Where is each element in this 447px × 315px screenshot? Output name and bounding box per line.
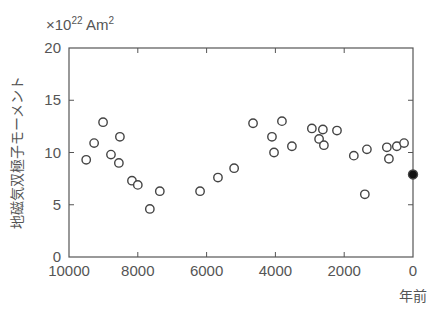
data-point	[319, 125, 327, 133]
axis-ticks: 100008000600040002000005101520	[44, 39, 417, 279]
data-point	[230, 164, 238, 172]
data-point	[82, 156, 90, 164]
data-point	[196, 187, 204, 195]
x-tick-label: 4000	[259, 262, 292, 279]
data-point	[99, 118, 107, 126]
data-point	[350, 151, 358, 159]
plot-frame	[69, 48, 413, 257]
present-value-point	[409, 170, 418, 179]
data-point	[363, 145, 371, 153]
y-tick-label: 15	[44, 91, 61, 108]
x-tick-label: 2000	[328, 262, 361, 279]
y-tick-label: 10	[44, 144, 61, 161]
y-unit-label: ×1022 Am2	[46, 15, 114, 33]
y-tick-label: 0	[53, 248, 61, 265]
data-point	[400, 139, 408, 147]
data-point	[288, 142, 296, 150]
data-point	[214, 173, 222, 181]
data-point	[308, 124, 316, 132]
data-point	[107, 150, 115, 158]
y-axis-title: 地磁気双極子モーメント	[9, 76, 25, 229]
data-point	[361, 190, 369, 198]
data-point	[320, 141, 328, 149]
data-points	[82, 117, 418, 213]
dipole-moment-chart: 100008000600040002000005101520 ×1022 Am2…	[0, 0, 447, 315]
data-point	[134, 181, 142, 189]
data-point	[383, 143, 391, 151]
data-point	[333, 126, 341, 134]
x-tick-label: 0	[409, 262, 417, 279]
data-point	[90, 139, 98, 147]
data-point	[278, 117, 286, 125]
data-point	[116, 133, 124, 141]
data-point	[115, 159, 123, 167]
y-tick-label: 5	[53, 196, 61, 213]
data-point	[268, 133, 276, 141]
y-tick-label: 20	[44, 39, 61, 56]
data-point	[146, 205, 154, 213]
data-point	[156, 187, 164, 195]
data-point	[385, 155, 393, 163]
data-point	[270, 148, 278, 156]
data-point	[249, 119, 257, 127]
x-tick-label: 8000	[121, 262, 154, 279]
x-axis-title: 年前	[399, 288, 427, 304]
x-tick-label: 6000	[190, 262, 223, 279]
